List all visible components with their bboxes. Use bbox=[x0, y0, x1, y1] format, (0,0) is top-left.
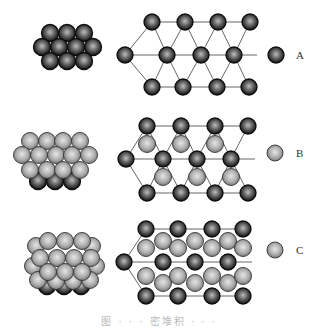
figure-caption: 图 · · · 密堆积 · · · bbox=[0, 313, 318, 328]
dark-sphere bbox=[204, 288, 220, 304]
dark-sphere bbox=[235, 288, 251, 304]
light-sphere bbox=[170, 268, 187, 285]
dark-sphere bbox=[118, 151, 134, 167]
light-sphere bbox=[189, 169, 206, 186]
dark-sphere bbox=[242, 14, 258, 30]
dark-sphere bbox=[170, 288, 186, 304]
dark-sphere bbox=[138, 288, 154, 304]
layer-A-cluster bbox=[34, 25, 102, 70]
dark-sphere bbox=[155, 254, 171, 270]
dark-sphere bbox=[170, 221, 186, 237]
legend-sphere-c bbox=[267, 242, 283, 258]
light-sphere bbox=[57, 233, 74, 250]
light-sphere bbox=[138, 268, 155, 285]
legend-label-b: B bbox=[296, 148, 303, 159]
light-sphere bbox=[31, 147, 48, 164]
dark-sphere bbox=[240, 118, 256, 134]
legend-sphere-b bbox=[267, 145, 283, 161]
dark-sphere bbox=[173, 118, 189, 134]
light-sphere bbox=[39, 162, 56, 179]
dark-sphere bbox=[144, 14, 160, 30]
dark-sphere bbox=[117, 47, 133, 63]
light-sphere bbox=[235, 268, 252, 285]
light-sphere bbox=[207, 136, 224, 153]
dark-sphere bbox=[207, 118, 223, 134]
light-sphere bbox=[204, 240, 221, 257]
layer-C-lattice bbox=[116, 221, 252, 304]
light-sphere bbox=[138, 240, 155, 257]
layer-B-cluster bbox=[14, 133, 98, 190]
dark-sphere bbox=[42, 53, 59, 70]
light-sphere bbox=[235, 240, 252, 257]
light-sphere bbox=[139, 136, 156, 153]
dark-sphere bbox=[59, 53, 76, 70]
layer-A-group bbox=[34, 14, 259, 95]
light-sphere bbox=[64, 147, 81, 164]
dark-sphere bbox=[138, 221, 154, 237]
light-sphere bbox=[22, 162, 39, 179]
dark-sphere bbox=[223, 151, 239, 167]
light-sphere bbox=[48, 147, 65, 164]
dark-sphere bbox=[207, 185, 223, 201]
light-sphere bbox=[155, 233, 172, 250]
dark-sphere bbox=[155, 151, 171, 167]
dark-sphere bbox=[159, 47, 175, 63]
light-sphere bbox=[220, 233, 237, 250]
light-sphere bbox=[81, 147, 98, 164]
light-sphere bbox=[55, 162, 72, 179]
light-sphere bbox=[72, 162, 89, 179]
dark-sphere bbox=[175, 79, 191, 95]
dark-sphere bbox=[173, 185, 189, 201]
dark-sphere bbox=[209, 79, 225, 95]
layer-B-group bbox=[14, 118, 257, 201]
dark-sphere bbox=[177, 14, 193, 30]
light-sphere bbox=[220, 275, 237, 292]
layer-C-cluster bbox=[25, 233, 105, 295]
dark-sphere bbox=[235, 221, 251, 237]
dark-sphere bbox=[193, 47, 209, 63]
dark-sphere bbox=[241, 79, 257, 95]
dark-sphere bbox=[116, 254, 132, 270]
light-sphere bbox=[223, 169, 240, 186]
dark-sphere bbox=[220, 254, 236, 270]
legend-sphere-a bbox=[268, 47, 284, 63]
dark-sphere bbox=[187, 254, 203, 270]
light-sphere bbox=[204, 268, 221, 285]
legend-label-a: A bbox=[296, 50, 304, 61]
light-sphere bbox=[155, 275, 172, 292]
dark-sphere bbox=[144, 79, 160, 95]
dark-sphere bbox=[76, 53, 93, 70]
dark-sphere bbox=[210, 14, 226, 30]
light-sphere bbox=[187, 233, 204, 250]
light-sphere bbox=[40, 233, 57, 250]
dark-sphere bbox=[139, 118, 155, 134]
light-sphere bbox=[57, 264, 74, 281]
dark-sphere bbox=[189, 151, 205, 167]
light-sphere bbox=[170, 240, 187, 257]
light-sphere bbox=[14, 147, 31, 164]
light-sphere bbox=[187, 275, 204, 292]
light-sphere bbox=[173, 136, 190, 153]
dark-sphere bbox=[240, 185, 256, 201]
layer-A-lattice bbox=[117, 14, 258, 95]
legend-label-c: C bbox=[296, 245, 303, 256]
dark-sphere bbox=[204, 221, 220, 237]
layer-B-lattice bbox=[118, 118, 256, 201]
layer-C-group bbox=[25, 221, 253, 304]
light-sphere bbox=[74, 233, 91, 250]
light-sphere bbox=[155, 169, 172, 186]
light-sphere bbox=[40, 264, 57, 281]
dark-sphere bbox=[226, 47, 242, 63]
dark-sphere bbox=[139, 185, 155, 201]
light-sphere bbox=[74, 264, 91, 281]
